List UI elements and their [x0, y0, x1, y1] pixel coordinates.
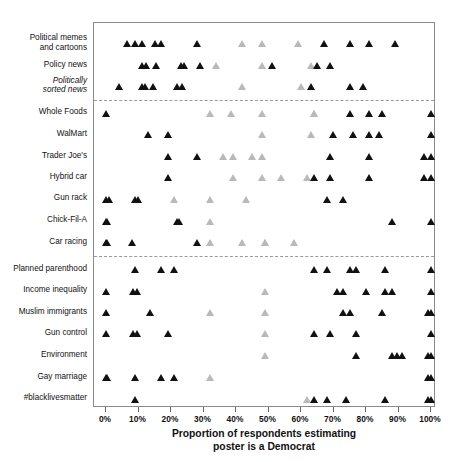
y-axis-label-6: Hybrid car	[0, 172, 92, 182]
y-axis-label-16: #blacklivesmatter	[0, 394, 92, 404]
x-axis-tick	[203, 407, 204, 412]
y-axis-label-14: Environment	[0, 350, 92, 360]
x-axis-tick-label-30: 30%	[194, 414, 211, 424]
x-axis: 0%10%20%30%40%50%60%70%80%90%100%	[93, 407, 435, 419]
y-axis-label-7: Gun rack	[0, 194, 92, 204]
x-axis-tick-label-50: 50%	[259, 414, 276, 424]
x-axis-tick	[365, 407, 366, 412]
x-axis-tick-label-90: 90%	[389, 414, 406, 424]
y-axis-label-11: Income inequality	[0, 286, 92, 296]
x-axis-tick	[398, 407, 399, 412]
panel-divider	[94, 100, 434, 101]
y-axis-label-8: Chick-Fil-A	[0, 215, 92, 225]
x-axis-tick	[138, 407, 139, 412]
y-axis-label-3: Whole Foods	[0, 107, 92, 117]
x-axis-tick-label-40: 40%	[227, 414, 244, 424]
y-axis-label-2: Politically sorted news	[0, 76, 92, 95]
x-axis-tick	[105, 407, 106, 412]
x-axis-tick-label-60: 60%	[292, 414, 309, 424]
x-axis-tick-label-70: 70%	[324, 414, 341, 424]
y-axis-label-13: Gun control	[0, 328, 92, 338]
plot-area	[93, 22, 435, 407]
y-axis-label-10: Planned parenthood	[0, 264, 92, 274]
x-axis-tick-label-100: 100%	[419, 414, 440, 424]
x-axis-tick-label-80: 80%	[357, 414, 374, 424]
x-axis-tick-label-10: 10%	[129, 414, 146, 424]
x-axis-tick-label-20: 20%	[162, 414, 179, 424]
y-axis-label-12: Muslim immigrants	[0, 307, 92, 317]
scatter-chart-figure: Political memes and cartoonsPolicy newsP…	[0, 0, 451, 462]
x-axis-title: Proportion of respondents estimating pos…	[93, 428, 435, 453]
y-axis-label-5: Trader Joe's	[0, 151, 92, 161]
x-axis-tick	[333, 407, 334, 412]
y-axis-label-1: Policy news	[0, 60, 92, 70]
panel-divider	[94, 256, 434, 257]
x-axis-tick	[268, 407, 269, 412]
y-axis-label-4: WalMart	[0, 129, 92, 139]
y-axis-label-15: Gay marriage	[0, 372, 92, 382]
x-axis-tick	[430, 407, 431, 412]
x-axis-tick	[170, 407, 171, 412]
x-axis-tick	[235, 407, 236, 412]
plot-points-layer	[94, 23, 434, 406]
y-axis-label-0: Political memes and cartoons	[0, 33, 92, 52]
x-axis-tick-label-0: 0%	[99, 414, 111, 424]
x-axis-title-line1: Proportion of respondents estimating	[93, 428, 435, 441]
y-axis-label-9: Car racing	[0, 237, 92, 247]
x-axis-tick	[300, 407, 301, 412]
x-axis-title-line2: poster is a Democrat	[93, 441, 435, 454]
